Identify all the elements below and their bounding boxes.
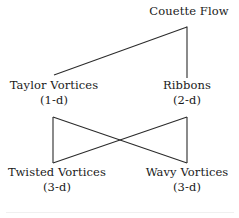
node-twisted-vortices: Twisted Vortices (3-d) xyxy=(8,166,106,194)
bifurcation-diagram: Couette Flow Taylor Vortices (1-d) Ribbo… xyxy=(0,0,239,218)
node-ribbons-label: Ribbons xyxy=(163,79,211,92)
node-twisted-vortices-label: Twisted Vortices xyxy=(8,166,106,179)
node-couette-flow-label: Couette Flow xyxy=(149,5,228,18)
node-ribbons: Ribbons (2-d) xyxy=(163,79,211,107)
scan-artifact-line xyxy=(6,212,234,213)
node-couette-flow: Couette Flow xyxy=(149,5,228,18)
node-wavy-vortices-label: Wavy Vortices xyxy=(146,166,229,179)
edge-couette-to-taylor xyxy=(54,27,187,75)
node-taylor-vortices-label: Taylor Vortices xyxy=(10,79,99,92)
node-wavy-vortices-dimension: (3-d) xyxy=(146,181,229,194)
node-wavy-vortices: Wavy Vortices (3-d) xyxy=(146,166,229,194)
node-taylor-vortices: Taylor Vortices (1-d) xyxy=(10,79,99,107)
node-ribbons-dimension: (2-d) xyxy=(163,94,211,107)
node-taylor-vortices-dimension: (1-d) xyxy=(10,94,99,107)
node-twisted-vortices-dimension: (3-d) xyxy=(8,181,106,194)
